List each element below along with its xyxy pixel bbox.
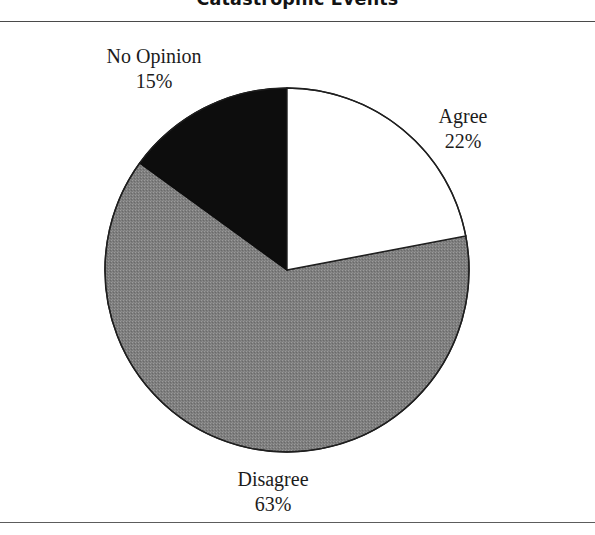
pie-label-no-opinion-percent: 15% xyxy=(74,69,234,94)
pie-label-no-opinion: No Opinion 15% xyxy=(74,44,234,94)
pie-label-agree: Agree 22% xyxy=(403,104,523,154)
pie-label-agree-name: Agree xyxy=(439,105,488,127)
pie-label-disagree: Disagree 63% xyxy=(193,467,353,517)
pie-label-agree-percent: 22% xyxy=(403,129,523,154)
pie-chart: No Opinion 15% Agree 22% Disagree 63% xyxy=(0,0,595,535)
pie-label-no-opinion-name: No Opinion xyxy=(107,45,202,67)
pie-label-disagree-name: Disagree xyxy=(237,468,308,490)
pie-label-disagree-percent: 63% xyxy=(193,492,353,517)
